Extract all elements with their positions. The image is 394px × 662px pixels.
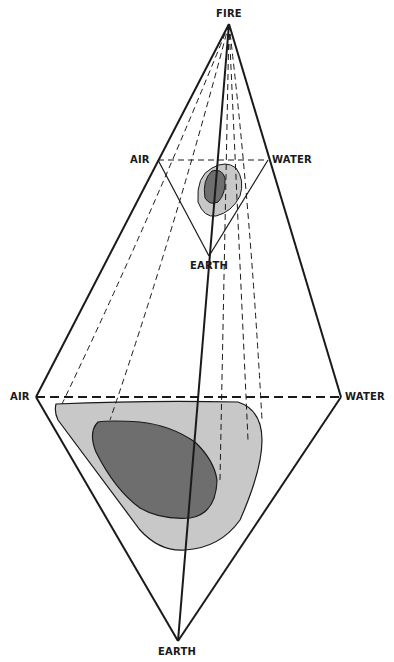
projection-line-1 <box>62 24 229 404</box>
label-water-small: WATER <box>272 154 312 165</box>
label-earth-large: EARTH <box>158 646 196 657</box>
label-air-large: AIR <box>10 391 30 402</box>
label-fire: FIRE <box>216 8 242 19</box>
projection-line-4 <box>229 24 248 440</box>
label-water-large: WATER <box>345 391 385 402</box>
label-earth-small: EARTH <box>190 260 228 271</box>
element-tetrahedron-diagram <box>0 0 394 662</box>
label-air-small: AIR <box>130 154 150 165</box>
projection-line-5 <box>229 24 262 420</box>
fire-air-edge <box>36 24 229 397</box>
projection-line-2 <box>110 24 229 420</box>
fire-water-edge <box>229 24 341 397</box>
